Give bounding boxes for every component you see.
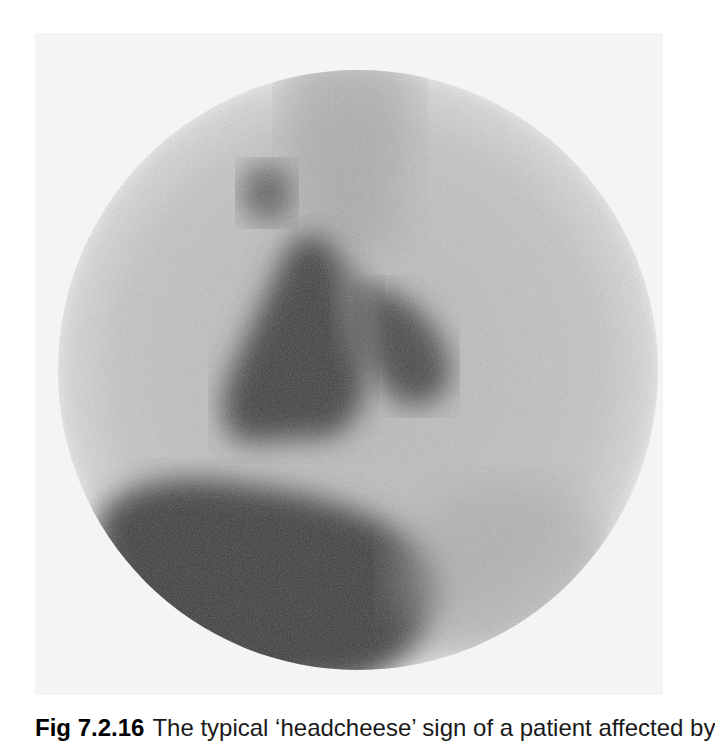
figure-caption: Fig 7.2.16The typical ‘headcheese’ sign … <box>35 714 715 742</box>
caption-text: The typical ‘headcheese’ sign of a patie… <box>152 714 715 741</box>
field-of-view <box>35 33 663 695</box>
scan-graphic <box>35 33 663 695</box>
figure-label: Fig 7.2.16 <box>35 714 144 741</box>
scintigraphy-image <box>35 33 663 695</box>
